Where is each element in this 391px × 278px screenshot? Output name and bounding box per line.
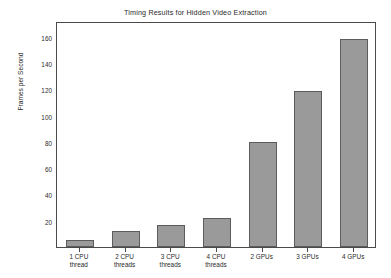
x-tick-mark bbox=[79, 248, 80, 252]
bar bbox=[294, 91, 322, 247]
bar bbox=[203, 218, 231, 247]
x-tick-mark bbox=[353, 248, 354, 252]
y-tick-label: 20 bbox=[28, 218, 52, 225]
bar bbox=[157, 225, 185, 247]
chart-title: Timing Results for Hidden Video Extracti… bbox=[0, 8, 391, 17]
x-tick-mark bbox=[125, 248, 126, 252]
x-tick-mark bbox=[262, 248, 263, 252]
y-tick-label: 80 bbox=[28, 139, 52, 146]
bar bbox=[112, 231, 140, 247]
x-tick-mark bbox=[216, 248, 217, 252]
plot-area bbox=[56, 22, 376, 248]
y-tick-label: 120 bbox=[28, 87, 52, 94]
y-tick-label: 140 bbox=[28, 61, 52, 68]
y-tick-label: 40 bbox=[28, 192, 52, 199]
bar bbox=[249, 142, 277, 247]
y-tick-label: 160 bbox=[28, 34, 52, 41]
y-axis-label: Frames per Second bbox=[17, 12, 24, 152]
bar bbox=[340, 39, 368, 247]
y-tick-label: 100 bbox=[28, 113, 52, 120]
x-tick-mark bbox=[307, 248, 308, 252]
y-tick-label: 60 bbox=[28, 166, 52, 173]
chart-figure: Timing Results for Hidden Video Extracti… bbox=[0, 0, 391, 278]
x-tick-mark bbox=[170, 248, 171, 252]
bar bbox=[66, 240, 94, 247]
x-tick-label: 4 GPUs bbox=[325, 253, 381, 261]
